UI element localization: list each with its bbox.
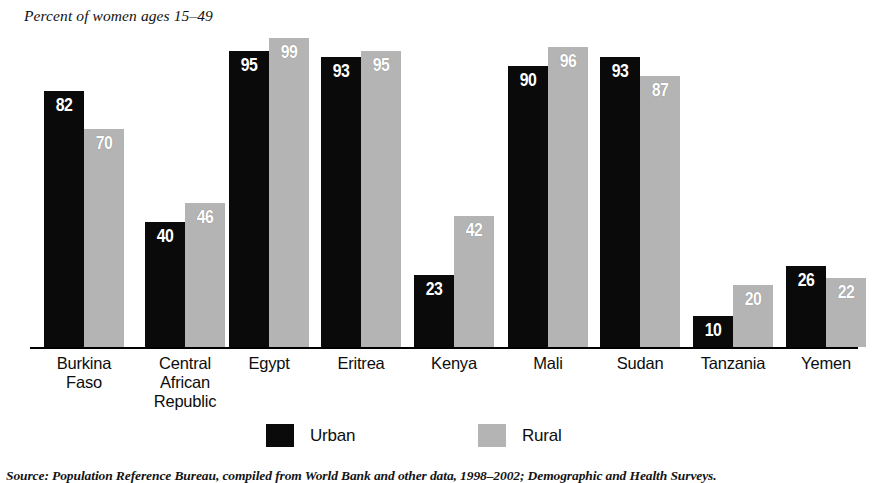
category-label-tanzania: Tanzania: [680, 354, 786, 373]
source-note: Source: Population Reference Bureau, com…: [6, 469, 878, 483]
category-label-line: Mali: [495, 354, 601, 373]
bar-kenya-urban: 23: [414, 275, 454, 347]
bar-mali-rural: 96: [548, 47, 588, 347]
bar-group: 4046: [145, 0, 225, 347]
bar-value-label: 99: [271, 43, 306, 61]
bar-value-label: 26: [788, 271, 823, 289]
category-label-line: Kenya: [401, 354, 507, 373]
bar-value-label: 70: [86, 134, 121, 152]
legend-label: Rural: [522, 426, 562, 446]
bar-group: 9599: [229, 0, 309, 347]
category-label-line: African: [132, 373, 238, 392]
bar-group: 9395: [321, 0, 401, 347]
category-label-line: Republic: [132, 392, 238, 411]
bar-sudan-rural: 87: [640, 76, 680, 347]
bar-value-label: 42: [456, 221, 491, 239]
category-label-line: Faso: [31, 373, 137, 392]
legend-label: Urban: [310, 426, 355, 446]
bar-value-label: 23: [416, 280, 451, 298]
legend-item-rural[interactable]: Rural: [478, 424, 562, 447]
category-label-yemen: Yemen: [773, 354, 879, 373]
category-label-egypt: Egypt: [216, 354, 322, 373]
bar-burkina-faso-urban: 82: [44, 91, 84, 347]
bar-burkina-faso-rural: 70: [84, 129, 124, 347]
bar-value-label: 95: [363, 56, 398, 74]
bar-central-african-republic-urban: 40: [145, 222, 185, 347]
category-label-line: Eritrea: [308, 354, 414, 373]
category-label-line: Sudan: [587, 354, 693, 373]
category-label-line: Yemen: [773, 354, 879, 373]
bar-egypt-rural: 99: [269, 38, 309, 347]
bar-value-label: 40: [147, 227, 182, 245]
bar-value-label: 95: [231, 56, 266, 74]
bar-value-label: 46: [187, 208, 222, 226]
category-label-sudan: Sudan: [587, 354, 693, 373]
bar-eritrea-rural: 95: [361, 51, 401, 347]
bar-group: 1020: [693, 0, 773, 347]
bar-mali-urban: 90: [508, 66, 548, 347]
bar-tanzania-urban: 10: [693, 316, 733, 347]
bar-yemen-urban: 26: [786, 266, 826, 347]
bar-group: 8270: [44, 0, 124, 347]
bar-value-label: 20: [735, 290, 770, 308]
bar-kenya-rural: 42: [454, 216, 494, 347]
bar-central-african-republic-rural: 46: [185, 203, 225, 347]
bar-group: 9096: [508, 0, 588, 347]
legend-item-urban[interactable]: Urban: [266, 424, 355, 447]
bar-value-label: 90: [510, 71, 545, 89]
category-label-kenya: Kenya: [401, 354, 507, 373]
chart-legend: UrbanRural: [0, 424, 879, 458]
category-label-line: Egypt: [216, 354, 322, 373]
bar-sudan-urban: 93: [600, 57, 640, 347]
bar-value-label: 22: [828, 283, 863, 301]
bar-tanzania-rural: 20: [733, 285, 773, 347]
bar-group: 9387: [600, 0, 680, 347]
plot-area: 827040469599939523429096938710202622 Bur…: [0, 0, 879, 352]
category-label-mali: Mali: [495, 354, 601, 373]
bar-value-label: 82: [46, 96, 81, 114]
bar-value-label: 87: [642, 81, 677, 99]
category-label-line: Burkina: [31, 354, 137, 373]
bar-value-label: 96: [550, 52, 585, 70]
legend-swatch-icon: [266, 424, 294, 447]
category-label-line: Tanzania: [680, 354, 786, 373]
category-label-burkina-faso: BurkinaFaso: [31, 354, 137, 392]
bar-yemen-rural: 22: [826, 278, 866, 347]
category-label-eritrea: Eritrea: [308, 354, 414, 373]
x-axis-baseline: [30, 347, 858, 349]
source-note-text: Source: Population Reference Bureau, com…: [6, 469, 717, 483]
bar-group: 2342: [414, 0, 494, 347]
bar-value-label: 93: [323, 62, 358, 80]
bar-value-label: 10: [695, 321, 730, 339]
legend-swatch-icon: [478, 424, 506, 447]
bar-value-label: 93: [602, 62, 637, 80]
bar-egypt-urban: 95: [229, 51, 269, 347]
bar-group: 2622: [786, 0, 866, 347]
bar-eritrea-urban: 93: [321, 57, 361, 347]
